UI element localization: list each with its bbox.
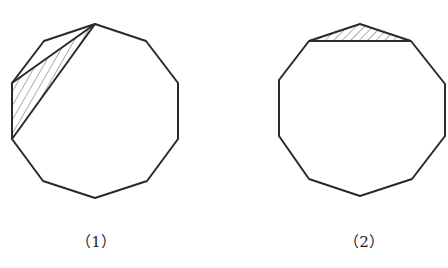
figure-2-shaded-triangle [309,24,411,41]
figure-2 [279,24,445,196]
figure-1 [12,24,178,198]
figure-1-label: （1） [76,230,116,251]
figure-1-decagon [12,24,178,198]
figure-2-decagon [279,24,445,196]
figure-2-label: （2） [344,230,384,251]
diagram-canvas [0,0,448,268]
